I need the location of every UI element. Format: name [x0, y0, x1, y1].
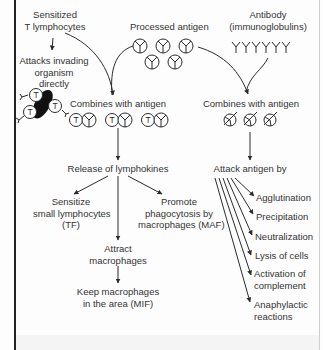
antibody-y-icon — [262, 42, 270, 53]
t-cell-antigen-complex-icon — [142, 113, 169, 127]
antibody-antigen-complex-icon — [264, 112, 277, 126]
mechanism-lysis-of-cells: Lysis of cells — [255, 250, 309, 262]
immune-response-diagram: T — [0, 0, 323, 350]
mechanism-precipitation: Precipitation — [256, 211, 308, 223]
node-sensitized-t-lymphocytes: Sensitized T lymphocytes — [20, 9, 90, 32]
node-release-of-lymphokines: Release of lymphokines — [66, 163, 170, 175]
node-antibody-immunoglobulins: Antibody (immunoglobulins) — [228, 9, 308, 32]
scan-bottom-edge — [16, 335, 319, 350]
node-attack-antigen-by: Attack antigen by — [207, 163, 293, 175]
antibody-y-icon — [242, 42, 250, 53]
antibody-y-icon — [282, 42, 290, 53]
processed-antigen-icon — [179, 39, 193, 53]
node-keep-macrophages: Keep macrophages in the area (MIF) — [73, 286, 163, 309]
processed-antigen-icon — [168, 55, 182, 69]
node-combines-with-antigen-cellular: Combines with antigen — [68, 98, 168, 110]
mechanism-activation-of-complement: Activation of complement — [254, 268, 306, 291]
node-attract-macrophages: Attract macrophages — [88, 243, 148, 266]
mechanism-agglutination: Agglutination — [256, 192, 311, 204]
antibody-y-icon — [232, 42, 240, 53]
t-cells-attacking-organism-icon — [16, 89, 69, 124]
node-processed-antigen: Processed antigen — [130, 21, 200, 33]
antibody-y-icon — [252, 42, 260, 53]
mechanism-neutralization: Neutralization — [255, 231, 313, 243]
processed-antigen-icon — [156, 39, 170, 53]
t-cell-antigen-complex-icon — [70, 113, 97, 127]
node-attacks-organism-directly: Attacks invading organism directly — [18, 55, 90, 90]
t-cell-antigen-complex-icon — [106, 113, 133, 127]
antibody-y-icon — [272, 42, 280, 53]
node-sensitize-small-lymphocytes: Sensitize small lymphocytes (TF) — [33, 196, 109, 231]
node-promote-phagocytosis: Promote phagocytosis by macrophages (MAF… — [138, 196, 220, 231]
processed-antigen-icon — [133, 39, 147, 53]
mechanism-anaphylactic-reactions: Anaphylactic reactions — [254, 299, 308, 322]
antibody-antigen-complex-icon — [244, 112, 257, 126]
node-combines-with-antigen-humoral: Combines with antigen — [201, 98, 301, 110]
antibody-antigen-complex-icon — [224, 112, 237, 126]
processed-antigen-icon — [145, 55, 159, 69]
